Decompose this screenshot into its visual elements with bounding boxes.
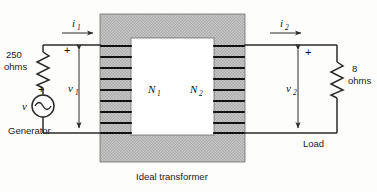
- load-resistor-8-ohm: [331, 62, 343, 98]
- secondary-turns-subscript: 2: [199, 89, 203, 98]
- circuit-diagram-canvas: N 1 N 2 250 ohms + v Generator i 1 + v 1: [0, 0, 377, 192]
- secondary-voltage-label: v: [286, 82, 291, 94]
- primary-current-label: i: [72, 17, 75, 29]
- load-side-label: Load: [303, 138, 324, 149]
- source-resistor-value: 250: [6, 49, 22, 60]
- primary-current-subscript: 1: [77, 23, 81, 32]
- figure-caption: Ideal transformer: [136, 171, 208, 182]
- source-resistor-plus: +: [38, 83, 44, 95]
- ac-voltage-source-symbol: [32, 95, 54, 117]
- load-resistor-unit: ohms: [348, 75, 371, 86]
- primary-voltage-label: v: [68, 82, 73, 94]
- secondary-current-label: i: [280, 17, 283, 29]
- load-resistor-value: 8: [352, 63, 357, 74]
- secondary-current-subscript: 2: [285, 23, 289, 32]
- secondary-polarity-plus: +: [305, 46, 311, 58]
- primary-turns-label: N: [147, 83, 156, 95]
- transformer-circuit-figure: N 1 N 2 250 ohms + v Generator i 1 + v 1: [0, 0, 377, 192]
- transformer-core: [100, 14, 245, 162]
- secondary-turns-label: N: [189, 83, 198, 95]
- generator-side-label: Generator: [8, 125, 51, 136]
- primary-voltage-subscript: 1: [75, 88, 79, 97]
- secondary-voltage-subscript: 2: [293, 88, 297, 97]
- source-resistor-unit: ohms: [4, 61, 27, 72]
- source-voltage-label: v: [22, 100, 27, 112]
- primary-polarity-plus: +: [64, 44, 70, 56]
- primary-turns-subscript: 1: [157, 89, 161, 98]
